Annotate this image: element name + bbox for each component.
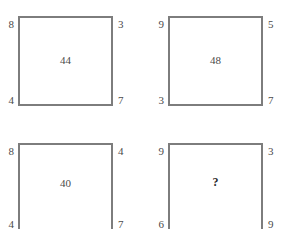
corner-label-bottom-left: 4 (0, 219, 14, 229)
corner-label-top-right: 3 (268, 146, 282, 157)
panel-center-value: 44 (18, 55, 113, 66)
corner-label-top-left: 8 (0, 146, 14, 157)
corner-label-bottom-right: 7 (118, 95, 132, 106)
corner-label-bottom-left: 4 (0, 95, 14, 106)
corner-label-bottom-left: 3 (150, 95, 164, 106)
corner-label-top-right: 3 (118, 19, 132, 30)
corner-label-top-left: 9 (150, 19, 164, 30)
panel-center-value: 48 (168, 55, 263, 66)
corner-label-bottom-right: 7 (268, 95, 282, 106)
corner-label-bottom-right: 7 (118, 219, 132, 229)
corner-label-bottom-right: 9 (268, 219, 282, 229)
corner-label-top-right: 4 (118, 146, 132, 157)
corner-label-top-left: 8 (0, 19, 14, 30)
puzzle-panel-bottom-right: 9 3 6 9 ? (141, 115, 282, 229)
corner-label-top-left: 9 (150, 146, 164, 157)
corner-label-bottom-left: 6 (150, 219, 164, 229)
corner-label-top-right: 5 (268, 19, 282, 30)
puzzle-panel-top-left: 8 3 4 7 44 (0, 0, 141, 115)
puzzle-panel-top-right: 9 5 3 7 48 (141, 0, 282, 115)
panel-center-unknown-marker: ? (168, 176, 263, 188)
panel-center-value: 40 (18, 178, 113, 189)
puzzle-canvas: 8 3 4 7 44 9 5 3 7 48 8 4 4 7 40 9 3 6 9… (0, 0, 282, 229)
puzzle-panel-bottom-left: 8 4 4 7 40 (0, 115, 141, 229)
